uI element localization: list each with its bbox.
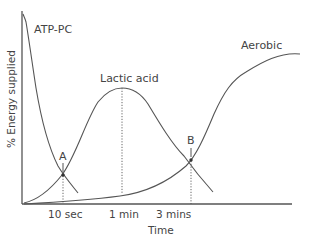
point-b-marker bbox=[189, 158, 192, 161]
label-point-b: B bbox=[187, 134, 195, 147]
atp-pc-curve bbox=[23, 14, 78, 193]
x-axis-title: Time bbox=[147, 224, 174, 236]
tick-label-3mins: 3 mins bbox=[156, 208, 191, 220]
tick-label-1min: 1 min bbox=[109, 208, 139, 220]
label-point-a: A bbox=[59, 150, 67, 163]
energy-systems-chart: ATP-PC Lactic acid Aerobic A B 10 sec 1 … bbox=[0, 0, 312, 242]
label-aerobic: Aerobic bbox=[241, 39, 282, 52]
label-lactic-acid: Lactic acid bbox=[100, 72, 159, 85]
point-a-marker bbox=[61, 173, 64, 176]
label-atp-pc: ATP-PC bbox=[34, 23, 72, 36]
aerobic-curve bbox=[24, 54, 300, 204]
lactic-acid-curve bbox=[24, 88, 213, 203]
tick-label-10sec: 10 sec bbox=[48, 208, 83, 220]
y-axis-title: % Energy supplied bbox=[5, 50, 17, 148]
